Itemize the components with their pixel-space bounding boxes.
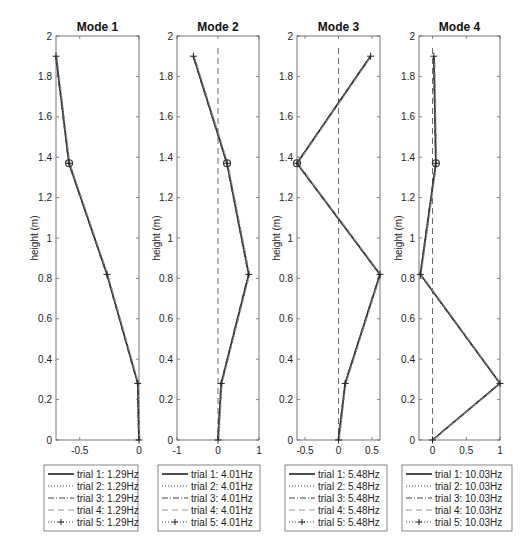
y-tick-label: 0 [46, 435, 52, 446]
y-tick-label: 1 [46, 233, 52, 244]
subplot-title: Mode 1 [77, 20, 119, 34]
legend-entry-label: trial 5: 4.01Hz [191, 517, 253, 528]
x-tick-label: 1 [497, 445, 503, 456]
y-tick-label: 2 [167, 31, 173, 42]
y-tick-label: 1 [409, 233, 415, 244]
y-tick-label: 1.6 [401, 111, 415, 122]
y-tick-label: 0.2 [279, 394, 293, 405]
legend-entry-label: trial 1: 5.48Hz [318, 469, 380, 480]
legend-entry-label: trial 3: 1.29Hz [77, 493, 139, 504]
y-tick-label: 1.4 [38, 152, 52, 163]
y-tick-label: 2 [287, 31, 293, 42]
legend: trial 1: 10.03Hztrial 2: 10.03Hztrial 3:… [402, 465, 512, 531]
legend-entry-label: trial 3: 5.48Hz [318, 493, 380, 504]
y-tick-label: 1.4 [401, 152, 415, 163]
y-tick-label: 1.8 [159, 71, 173, 82]
legend-entry-label: trial 1: 4.01Hz [191, 469, 253, 480]
x-tick-label: 0 [336, 445, 342, 456]
y-tick-label: 1.8 [279, 71, 293, 82]
subplot-mode-3: Mode 300.20.40.60.811.21.41.61.82-0.500.… [271, 20, 387, 531]
x-tick-label: -0.5 [71, 445, 89, 456]
legend-entry-label: trial 2: 10.03Hz [435, 481, 502, 492]
y-tick-label: 0.8 [279, 273, 293, 284]
legend-entry-label: trial 4: 5.48Hz [318, 505, 380, 516]
y-tick-label: 0.6 [159, 313, 173, 324]
y-axis-label: height (m) [29, 215, 40, 260]
y-tick-label: 1.2 [159, 192, 173, 203]
y-tick-label: 0.8 [159, 273, 173, 284]
y-tick-label: 2 [46, 31, 52, 42]
legend-entry-label: trial 4: 10.03Hz [435, 505, 502, 516]
x-tick-label: 0.5 [365, 445, 379, 456]
legend-entry-label: trial 5: 10.03Hz [435, 517, 502, 528]
y-tick-label: 0.2 [401, 394, 415, 405]
x-tick-label: 1 [256, 445, 262, 456]
x-tick-label: -0.5 [296, 445, 314, 456]
x-tick-label: 0 [215, 445, 221, 456]
subplot-mode-1: Mode 100.20.40.60.811.21.41.61.82-0.50he… [29, 20, 143, 531]
legend-entry-label: trial 3: 10.03Hz [435, 493, 502, 504]
y-tick-label: 0.4 [159, 354, 173, 365]
subplot-title: Mode 4 [439, 20, 481, 34]
axes-box [56, 36, 139, 440]
y-tick-label: 1.6 [38, 111, 52, 122]
y-tick-label: 0.6 [401, 313, 415, 324]
y-tick-label: 0.2 [159, 394, 173, 405]
y-axis-label: height (m) [393, 215, 404, 260]
legend-entry-label: trial 2: 1.29Hz [77, 481, 139, 492]
y-tick-label: 0 [287, 435, 293, 446]
y-tick-label: 1.8 [38, 71, 52, 82]
x-tick-label: 0 [430, 445, 436, 456]
legend-entry-label: trial 1: 1.29Hz [77, 469, 139, 480]
y-tick-label: 0 [167, 435, 173, 446]
y-tick-label: 1.6 [159, 111, 173, 122]
y-tick-label: 2 [409, 31, 415, 42]
y-tick-label: 0 [409, 435, 415, 446]
subplot-mode-4: Mode 400.20.40.60.811.21.41.61.8200.51he… [393, 20, 512, 531]
y-tick-label: 0.4 [38, 354, 52, 365]
y-tick-label: 0.6 [38, 313, 52, 324]
axes-box [419, 36, 500, 440]
subplot-title: Mode 3 [318, 20, 360, 34]
y-axis-label: height (m) [151, 215, 162, 260]
y-tick-label: 1.2 [401, 192, 415, 203]
y-tick-label: 1.6 [279, 111, 293, 122]
y-tick-label: 0.4 [279, 354, 293, 365]
legend-entry-label: trial 5: 1.29Hz [77, 517, 139, 528]
x-tick-label: -1 [173, 445, 182, 456]
y-tick-label: 1 [167, 233, 173, 244]
y-tick-label: 0.8 [38, 273, 52, 284]
y-tick-label: 0.2 [38, 394, 52, 405]
y-axis-label: height (m) [271, 215, 282, 260]
x-tick-label: 0.5 [459, 445, 473, 456]
subplot-mode-2: Mode 200.20.40.60.811.21.41.61.82-101hei… [151, 20, 262, 531]
y-tick-label: 0.4 [401, 354, 415, 365]
legend-entry-label: trial 4: 4.01Hz [191, 505, 253, 516]
legend: trial 1: 5.48Hztrial 2: 5.48Hztrial 3: 5… [285, 465, 387, 531]
y-tick-label: 1.2 [38, 192, 52, 203]
legend-entry-label: trial 4: 1.29Hz [77, 505, 139, 516]
y-tick-label: 1.2 [279, 192, 293, 203]
legend: trial 1: 4.01Hztrial 2: 4.01Hztrial 3: 4… [158, 465, 260, 531]
x-tick-label: 0 [136, 445, 142, 456]
mode-shape-figure: Mode 100.20.40.60.811.21.41.61.82-0.50he… [0, 0, 522, 545]
y-tick-label: 0.6 [279, 313, 293, 324]
legend-entry-label: trial 2: 5.48Hz [318, 481, 380, 492]
y-tick-label: 1 [287, 233, 293, 244]
y-tick-label: 0.8 [401, 273, 415, 284]
subplot-title: Mode 2 [197, 20, 239, 34]
y-tick-label: 1.8 [401, 71, 415, 82]
legend-entry-label: trial 3: 4.01Hz [191, 493, 253, 504]
legend-entry-label: trial 2: 4.01Hz [191, 481, 253, 492]
legend: trial 1: 1.29Hztrial 2: 1.29Hztrial 3: 1… [44, 465, 139, 531]
y-tick-label: 1.4 [159, 152, 173, 163]
legend-entry-label: trial 5: 5.48Hz [318, 517, 380, 528]
y-tick-label: 1.4 [279, 152, 293, 163]
legend-entry-label: trial 1: 10.03Hz [435, 469, 502, 480]
